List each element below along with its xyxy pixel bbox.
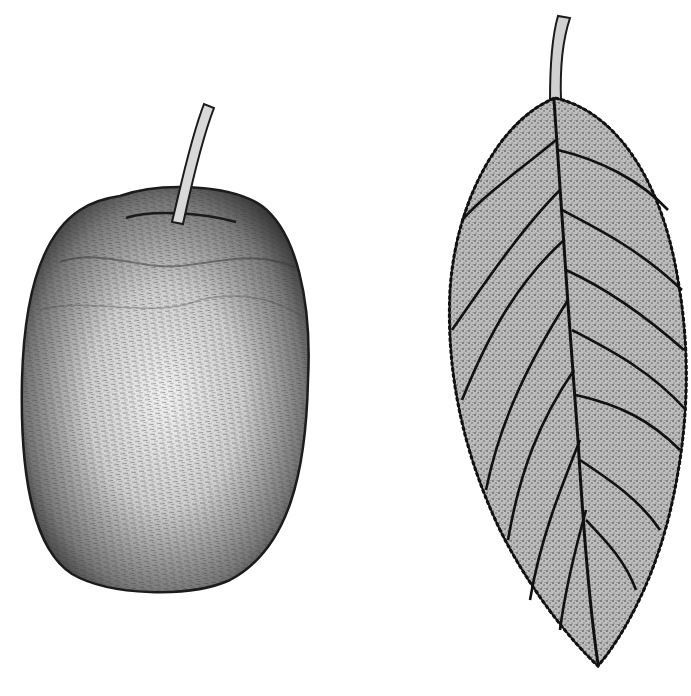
illustration-canvas: Pen-and-ink stippled apple with stem Ser…	[0, 0, 691, 696]
apple	[22, 104, 309, 592]
leaf-petiole	[550, 16, 570, 100]
leaf	[449, 16, 686, 666]
botanical-drawing	[0, 0, 691, 696]
